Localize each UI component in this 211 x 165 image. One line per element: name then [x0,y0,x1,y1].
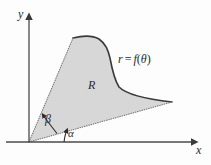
curve-close-paren: ) [147,52,151,66]
curve-equals-sign: = [123,52,134,66]
y-axis-label: y [18,8,23,20]
polar-region-figure: y x R α β r=f(θ) [0,0,211,165]
angle-arc-alpha [64,133,66,143]
curve-equation-label: r=f(θ) [118,53,151,65]
alpha-angle-label: α [68,128,74,139]
figure-canvas [0,0,211,165]
x-axis-label: x [196,144,201,156]
curve-r-symbol: r [118,52,123,66]
beta-angle-label: β [45,113,51,125]
region-label: R [88,79,95,91]
